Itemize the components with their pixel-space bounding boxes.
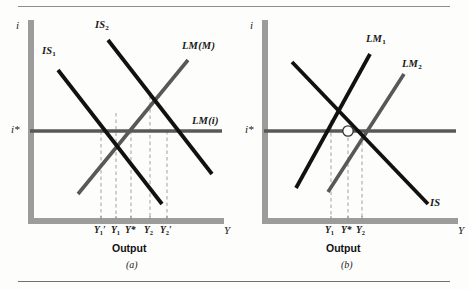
panel-a-tick-label-1: Y1 [111, 226, 120, 236]
panel-a-curve-label-lm-i: LM(i) [192, 116, 219, 127]
panel-b-curve-label-lm2: LM2 [402, 59, 422, 71]
panel-b-y-axis-label: i [250, 20, 253, 31]
panel-a: i i* Y IS1 IS2 LM(M) LM(i) Y1′ Y1 Y* Y2 … [2, 12, 234, 274]
panel-a-tick-label-3: Y2 [144, 226, 153, 236]
panel-b-tick-label-2: Y2 [356, 226, 365, 236]
panel-a-y-axis [28, 20, 34, 224]
panel-a-curve-label-is2: IS2 [95, 20, 109, 32]
panel-b-plot [236, 12, 468, 274]
panel-a-interest-target-label: i* [11, 124, 20, 135]
panel-a-x-axis-title: Output [112, 242, 146, 254]
panel-b-equilibrium-marker [343, 126, 353, 136]
curve-lm-m [78, 60, 188, 194]
panel-a-tick-label-4: Y2′ [160, 226, 172, 236]
panel-b-tick-label-0: Y1 [325, 226, 334, 236]
panel-b-caption: (b) [341, 260, 353, 270]
panel-a-tick-label-0: Y1′ [94, 226, 106, 236]
panel-a-caption: (a) [126, 260, 138, 270]
top-rule [18, 6, 450, 7]
panel-a-tick-label-2: Y* [125, 226, 136, 236]
panel-b-tick-label-1: Y* [341, 226, 352, 236]
panel-b-curve-label-lm1: LM1 [366, 34, 386, 46]
bottom-rule [18, 281, 450, 282]
panel-a-y-axis-label: i [16, 20, 19, 31]
panel-b-x-axis [262, 218, 458, 224]
panel-b-x-axis-title: Output [326, 242, 360, 254]
panel-b: i i* Y LM1 LM2 IS Y1 Y* Y2 Output (b) [236, 12, 468, 274]
panel-a-x-axis-label: Y [224, 225, 230, 236]
curve-is [292, 62, 428, 204]
panel-a-droplines [101, 96, 167, 220]
panel-b-x-axis-label: Y [458, 225, 464, 236]
curve-lm-2 [328, 74, 404, 192]
panel-a-curve-label-lm-m: LM(M) [182, 41, 215, 52]
panel-b-interest-target-label: i* [245, 124, 254, 135]
panel-b-curve-label-is: IS [430, 198, 440, 209]
panel-a-curve-label-is1: IS1 [42, 46, 56, 58]
figure-islm: i i* Y IS1 IS2 LM(M) LM(i) Y1′ Y1 Y* Y2 … [0, 0, 469, 290]
panel-b-y-axis [262, 20, 268, 224]
panel-a-x-axis [28, 218, 224, 224]
curve-lm-1 [296, 54, 370, 188]
